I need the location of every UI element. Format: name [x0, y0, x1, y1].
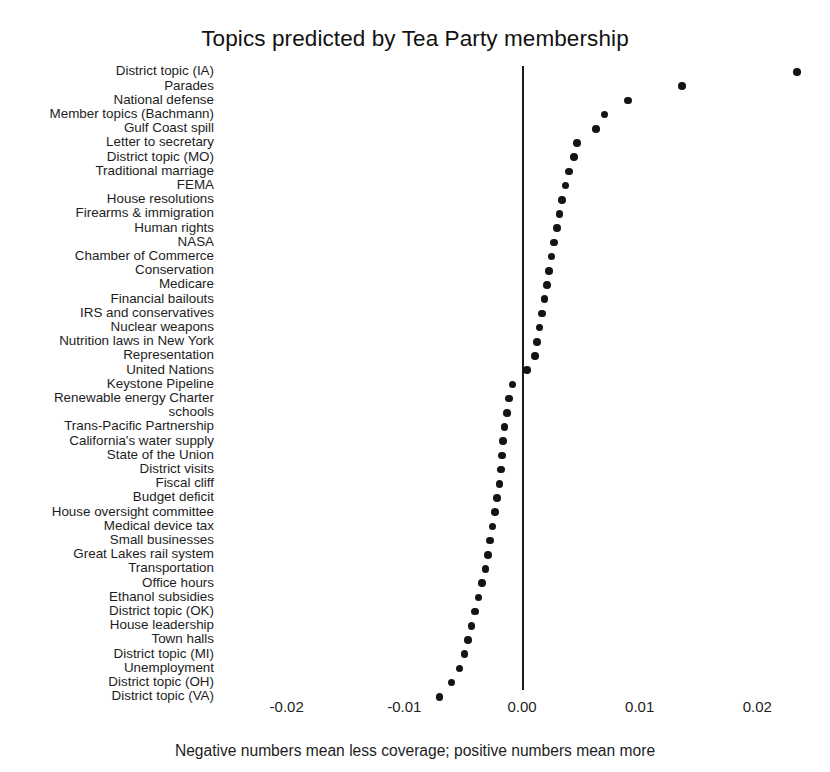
data-point: [509, 381, 517, 389]
y-axis-tick-label: Renewable energy Charter: [0, 391, 214, 405]
x-axis-tick-label: -0.01: [387, 698, 421, 715]
y-axis-tick-label: IRS and conservatives: [0, 306, 214, 320]
data-point: [543, 281, 551, 289]
y-axis-tick-label: Budget deficit: [0, 490, 214, 504]
x-axis-tick-label: -0.02: [270, 698, 304, 715]
y-axis-tick-label: Office hours: [0, 576, 214, 590]
data-point: [496, 480, 504, 488]
x-axis-tick-label: 0.00: [507, 698, 536, 715]
y-axis-tick-label: Great Lakes rail system: [0, 547, 214, 561]
chart-caption: Negative numbers mean less coverage; pos…: [0, 742, 830, 760]
data-point: [505, 395, 513, 403]
data-point: [793, 68, 801, 76]
data-point: [541, 295, 549, 303]
y-axis-tick-label: District topic (MI): [0, 647, 214, 661]
y-axis-tick-label: National defense: [0, 93, 214, 107]
data-point: [464, 636, 472, 644]
y-axis-tick-label: Parades: [0, 79, 214, 93]
data-point: [531, 352, 539, 360]
data-point: [498, 452, 506, 460]
data-point: [556, 210, 564, 218]
y-axis-tick-label: House resolutions: [0, 192, 214, 206]
y-axis-tick-label: Medicare: [0, 277, 214, 291]
data-point: [448, 679, 456, 687]
data-point: [478, 579, 486, 587]
x-axis: -0.02-0.010.000.010.02: [222, 690, 822, 720]
y-axis-tick-label: Nutrition laws in New York: [0, 334, 214, 348]
data-point: [497, 466, 505, 474]
y-axis-tick-label: California's water supply: [0, 434, 214, 448]
plot-area: [222, 66, 822, 690]
y-axis-tick-label: Town halls: [0, 632, 214, 646]
y-axis-tick-label: Conservation: [0, 263, 214, 277]
zero-reference-line: [522, 66, 524, 690]
y-axis-tick-label: Human rights: [0, 221, 214, 235]
data-point: [491, 508, 499, 516]
data-point: [456, 665, 464, 673]
y-axis-label-group: District topic (IA)ParadesNational defen…: [0, 66, 214, 690]
data-point: [482, 565, 490, 573]
data-point: [484, 551, 492, 559]
y-axis-tick-label: District topic (OH): [0, 675, 214, 689]
y-axis-tick-label: Financial bailouts: [0, 292, 214, 306]
data-point: [489, 523, 497, 531]
y-axis-tick-label: Ethanol subsidies: [0, 590, 214, 604]
data-point: [538, 310, 546, 318]
y-axis-tick-label: NASA: [0, 235, 214, 249]
y-axis-tick-label: House oversight committee: [0, 505, 214, 519]
data-point: [536, 324, 544, 332]
y-axis-tick-label: Fiscal cliff: [0, 476, 214, 490]
y-axis-tick-label: Medical device tax: [0, 519, 214, 533]
data-point: [570, 153, 578, 161]
data-point: [503, 409, 511, 417]
data-point: [545, 267, 553, 275]
data-point: [562, 182, 570, 190]
y-axis-tick-label: Member topics (Bachmann): [0, 107, 214, 121]
y-axis-tick-label: Unemployment: [0, 661, 214, 675]
data-point: [523, 366, 531, 374]
y-axis-tick-label: State of the Union: [0, 448, 214, 462]
data-point: [501, 423, 509, 431]
data-point: [468, 622, 476, 630]
y-axis-tick-label: United Nations: [0, 363, 214, 377]
y-axis-tick-label: schools: [0, 405, 214, 419]
data-point: [558, 196, 566, 204]
data-point: [601, 111, 609, 119]
data-point: [533, 338, 541, 346]
y-axis-tick-label: District topic (MO): [0, 150, 214, 164]
x-axis-tick-label: 0.01: [625, 698, 654, 715]
y-axis-tick-label: Trans-Pacific Partnership: [0, 419, 214, 433]
y-axis-tick-label: Small businesses: [0, 533, 214, 547]
y-axis-tick-label: District visits: [0, 462, 214, 476]
y-axis-tick-label: Chamber of Commerce: [0, 249, 214, 263]
y-axis-tick-label: District topic (IA): [0, 64, 214, 78]
data-point: [475, 594, 483, 602]
y-axis-tick-label: FEMA: [0, 178, 214, 192]
chart-figure: Topics predicted by Tea Party membership…: [0, 0, 830, 772]
y-axis-tick-label: Transportation: [0, 561, 214, 575]
y-axis-tick-label: House leadership: [0, 618, 214, 632]
x-axis-tick-label: 0.02: [743, 698, 772, 715]
data-point: [548, 253, 556, 261]
data-point: [624, 97, 632, 105]
y-axis-tick-label: Keystone Pipeline: [0, 377, 214, 391]
y-axis-tick-label: Representation: [0, 348, 214, 362]
data-point: [471, 608, 479, 616]
data-point: [499, 437, 507, 445]
page-title: Topics predicted by Tea Party membership: [0, 26, 830, 52]
data-point: [461, 650, 469, 658]
data-point: [553, 224, 561, 232]
y-axis-tick-label: District topic (OK): [0, 604, 214, 618]
data-point: [565, 168, 573, 176]
y-axis-tick-label: Letter to secretary: [0, 135, 214, 149]
y-axis-tick-label: Gulf Coast spill: [0, 121, 214, 135]
y-axis-tick-label: District topic (VA): [0, 689, 214, 703]
y-axis-tick-label: Traditional marriage: [0, 164, 214, 178]
y-axis-tick-label: Nuclear weapons: [0, 320, 214, 334]
data-point: [550, 239, 558, 247]
data-point: [493, 494, 501, 502]
data-point: [592, 125, 600, 133]
y-axis-tick-label: Firearms & immigration: [0, 206, 214, 220]
data-point: [678, 82, 686, 90]
data-point: [573, 139, 581, 147]
